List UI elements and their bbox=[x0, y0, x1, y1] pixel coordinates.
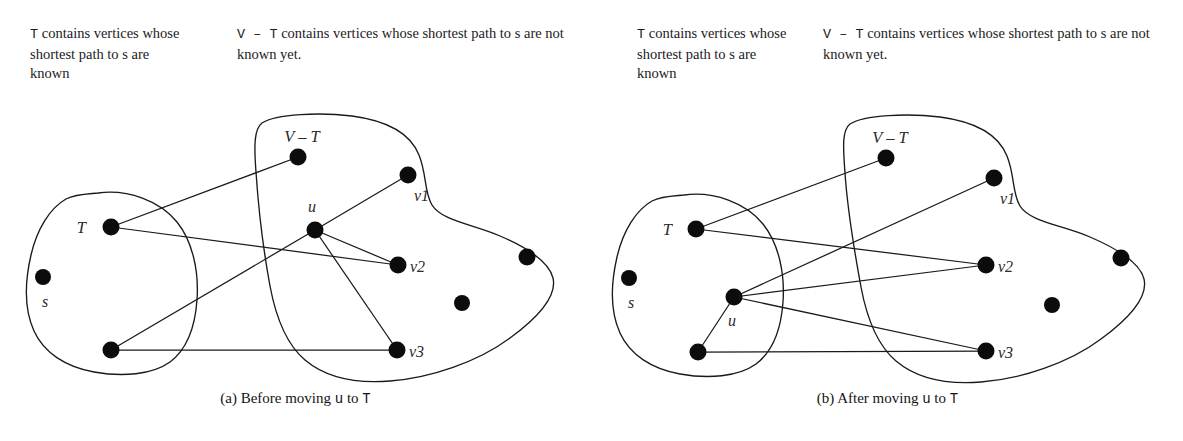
t-lower-node bbox=[103, 342, 120, 359]
label-v1: v1 bbox=[414, 187, 429, 204]
label-s: s bbox=[42, 293, 48, 310]
label-set-t: T bbox=[663, 220, 674, 239]
label-set-t: T bbox=[77, 218, 88, 237]
vt-top-node bbox=[290, 149, 307, 166]
v3-node bbox=[978, 343, 995, 360]
edge-u-to-v1 bbox=[734, 178, 994, 297]
s-node bbox=[621, 270, 637, 286]
caption-u-symbol: u bbox=[335, 391, 343, 407]
v2-node bbox=[390, 257, 407, 274]
vt-top-node bbox=[878, 150, 895, 167]
vt-right-node bbox=[519, 249, 536, 266]
figure-b-caption: (b) After moving u to T bbox=[592, 390, 1183, 407]
caption-mid: to bbox=[931, 390, 950, 406]
edge-t-to-v2 bbox=[696, 229, 986, 265]
figure-a-edges bbox=[111, 157, 408, 350]
edge-t-to-vttop bbox=[111, 157, 298, 227]
t-lower-node bbox=[690, 344, 707, 361]
label-set-vt: V – T bbox=[872, 128, 909, 147]
label-u: u bbox=[308, 198, 316, 215]
figure-a-diagram: T V – T s u v1 v2 v3 bbox=[0, 0, 591, 441]
v1-node bbox=[400, 167, 417, 184]
vt-right-node bbox=[1113, 250, 1130, 267]
caption-u-symbol: u bbox=[922, 391, 930, 407]
label-v3: v3 bbox=[998, 344, 1013, 361]
caption-t-symbol: T bbox=[362, 391, 370, 407]
edge-tlower-to-v3 bbox=[698, 351, 986, 352]
t-node bbox=[103, 219, 120, 236]
figure-b-nodes bbox=[621, 150, 1130, 361]
label-v3: v3 bbox=[409, 343, 424, 360]
vt-mid-node bbox=[1044, 297, 1060, 313]
vt-mid-node bbox=[454, 295, 470, 311]
v3-node bbox=[389, 342, 406, 359]
u-node bbox=[307, 222, 324, 239]
label-s: s bbox=[628, 294, 634, 311]
edge-u-to-v3 bbox=[734, 297, 986, 351]
edge-u-to-v3 bbox=[315, 230, 397, 350]
t-node bbox=[688, 221, 705, 238]
label-u: u bbox=[728, 312, 736, 329]
caption-prefix: (b) After moving bbox=[817, 390, 922, 406]
edge-u-to-v1 bbox=[315, 175, 408, 230]
label-v2: v2 bbox=[410, 258, 425, 275]
v2-node bbox=[978, 257, 995, 274]
figure-b-diagram: T V – T s u v1 v2 v3 bbox=[592, 0, 1183, 441]
v1-node bbox=[986, 170, 1003, 187]
figure-a-nodes bbox=[35, 149, 536, 359]
edge-u-to-v2 bbox=[734, 265, 986, 297]
figure-a: T contains vertices whose shortest path … bbox=[0, 0, 591, 441]
figure-b-edges bbox=[696, 158, 994, 352]
s-node bbox=[35, 269, 51, 285]
caption-mid: to bbox=[343, 390, 362, 406]
edge-t-to-v2 bbox=[111, 227, 398, 265]
label-v2: v2 bbox=[998, 258, 1013, 275]
caption-t-symbol: T bbox=[950, 391, 958, 407]
label-set-vt: V – T bbox=[284, 127, 321, 146]
figure-a-caption: (a) Before moving u to T bbox=[0, 390, 591, 407]
figure-b: T contains vertices whose shortest path … bbox=[592, 0, 1183, 441]
label-v1: v1 bbox=[1000, 190, 1015, 207]
caption-prefix: (a) Before moving bbox=[220, 390, 335, 406]
edge-t-to-vttop bbox=[696, 158, 886, 229]
u-node bbox=[726, 289, 743, 306]
